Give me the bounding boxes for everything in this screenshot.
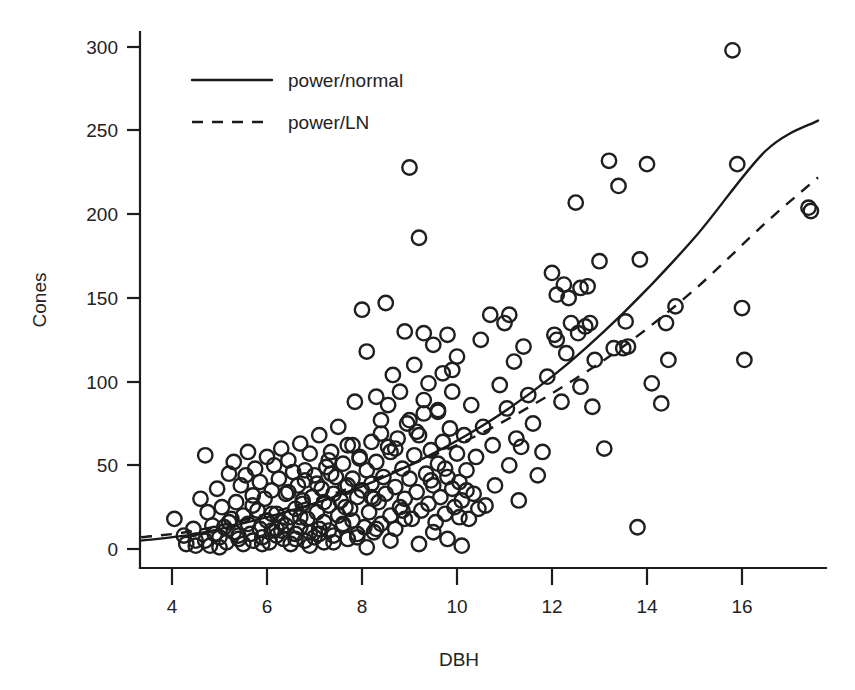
y-tick-label: 250 [86, 120, 118, 141]
scatter-plot-svg: 300 250 200 150 100 50 0 4 6 8 10 12 14 … [0, 0, 855, 690]
y-tick-label: 300 [86, 37, 118, 58]
x-tick-label: 12 [541, 596, 562, 617]
y-tick-label: 150 [86, 288, 118, 309]
x-tick-label: 8 [357, 596, 368, 617]
x-tick-label: 6 [262, 596, 273, 617]
y-tick-label: 200 [86, 204, 118, 225]
y-tick-label: 0 [107, 539, 118, 560]
x-tick-label: 16 [731, 596, 752, 617]
chart-figure: 300 250 200 150 100 50 0 4 6 8 10 12 14 … [0, 0, 855, 690]
x-tick-label: 14 [636, 596, 658, 617]
x-tick-label: 10 [446, 596, 467, 617]
legend-label-power-normal: power/normal [288, 70, 403, 91]
legend-label-power-ln: power/LN [288, 112, 369, 133]
y-tick-label: 50 [97, 455, 118, 476]
plot-background [0, 0, 855, 690]
x-axis-title: DBH [439, 649, 479, 670]
y-tick-label: 100 [86, 372, 118, 393]
y-axis-title: Cones [29, 273, 50, 328]
x-tick-label: 4 [167, 596, 178, 617]
